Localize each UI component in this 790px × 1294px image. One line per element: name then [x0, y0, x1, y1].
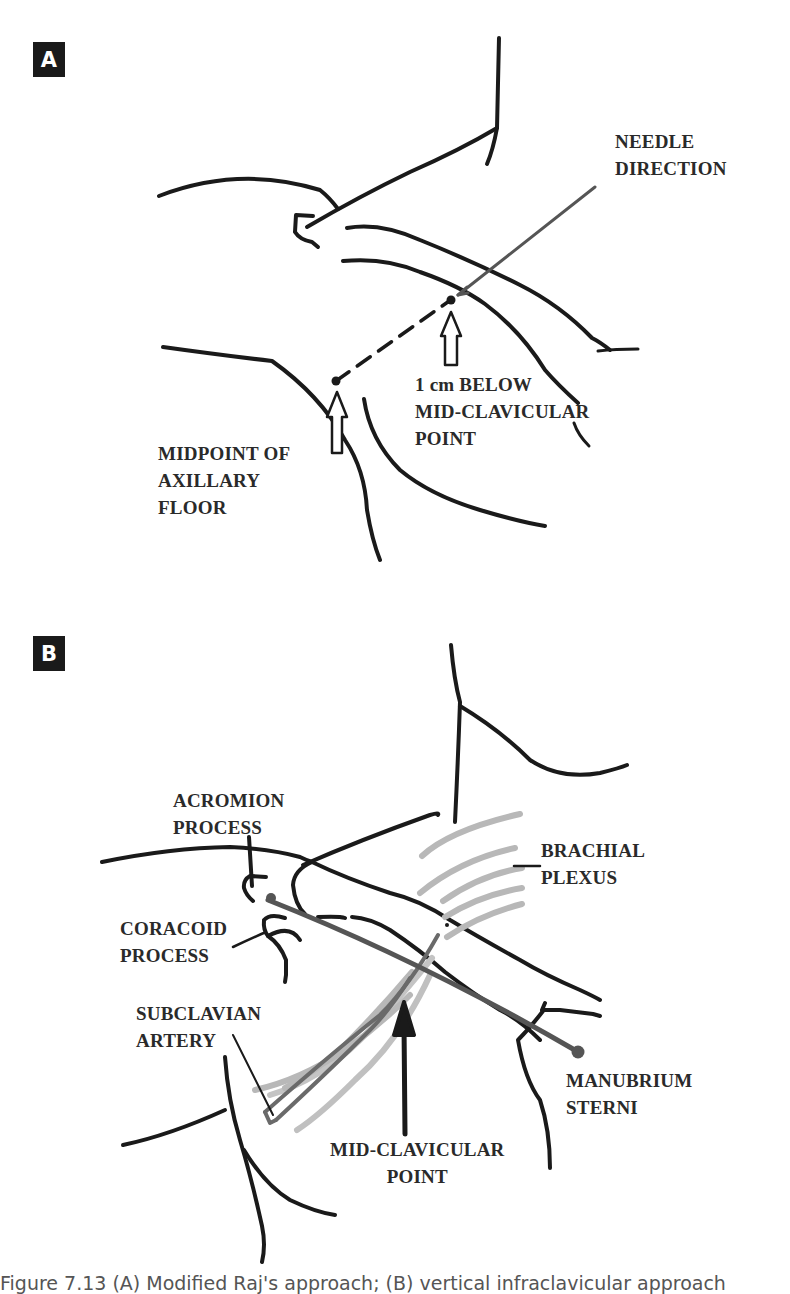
hollow-arrow-icon [327, 392, 347, 453]
label-mid-clavicular-point: MID-CLAVICULAR POINT [330, 1136, 505, 1190]
label-1cm-below-midclavicular: 1 cm BELOW MID-CLAVICULAR POINT [415, 371, 590, 452]
start-dot [266, 893, 276, 903]
label-acromion-process: ACROMION PROCESS [173, 787, 284, 841]
label-subclavian-artery: SUBCLAVIAN ARTERY [136, 1000, 261, 1054]
panel-b-badge: B [33, 636, 65, 671]
figure-caption: Figure 7.13 (A) Modified Raj's approach;… [0, 1272, 790, 1294]
needle-path-line [268, 900, 580, 1053]
dashed-line [336, 299, 452, 381]
manubrium-dot [572, 1046, 585, 1059]
label-manubrium-sterni: MANUBRIUM STERNI [566, 1067, 692, 1121]
label-needle-direction: NEEDLE DIRECTION [615, 128, 727, 182]
axillary-midpoint-dot [332, 377, 341, 386]
brachial-plexus-strands [255, 814, 522, 1130]
label-coracoid-process: CORACOID PROCESS [120, 915, 227, 969]
insertion-dot [447, 296, 456, 305]
panel-a-badge: A [33, 42, 65, 77]
needle-direction-line [458, 187, 595, 295]
hollow-arrow-icon [441, 312, 461, 365]
label-midpoint-axillary-floor: MIDPOINT OF AXILLARY FLOOR [158, 440, 290, 521]
label-brachial-plexus: BRACHIAL PLEXUS [541, 837, 645, 891]
